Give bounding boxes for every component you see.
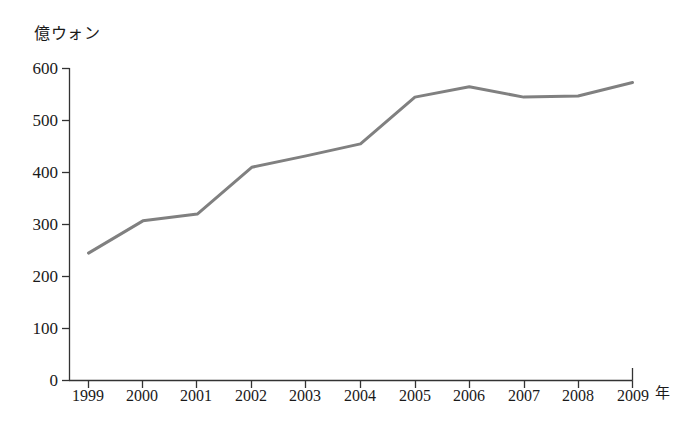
x-axis (69, 368, 633, 388)
data-series-line (89, 83, 633, 254)
x-axis-ticks (89, 381, 633, 389)
plot-area (0, 0, 692, 423)
line-chart: 億ウォン 年 600 500 400 300 200 100 0 1999 20… (0, 0, 692, 423)
y-axis (62, 68, 70, 381)
y-axis-ticks (62, 69, 70, 381)
